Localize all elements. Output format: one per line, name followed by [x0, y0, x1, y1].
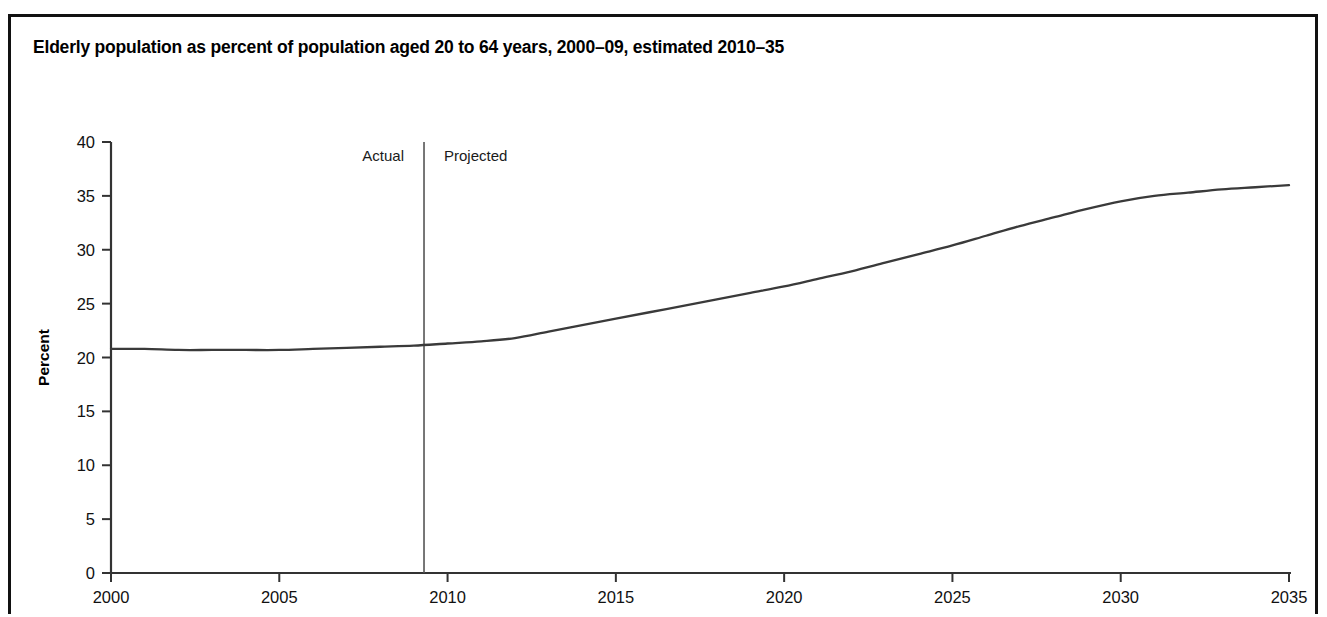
x-tick-label: 2035 [1271, 588, 1308, 606]
y-tick-label: 25 [77, 295, 95, 313]
y-tick-label: 10 [77, 456, 95, 474]
series-path [111, 185, 1289, 350]
phase-label-projected: Projected [444, 147, 507, 164]
y-axis-title: Percent [35, 329, 52, 386]
line-chart: 0510152025303540 20002005201020152020202… [11, 17, 1321, 617]
x-tick-label: 2020 [766, 588, 803, 606]
axis-lines [111, 142, 1291, 573]
y-tick-label: 5 [86, 510, 95, 528]
y-tick-label: 15 [77, 402, 95, 420]
x-tick-label: 2010 [429, 588, 466, 606]
y-tick-label: 0 [86, 564, 95, 582]
y-axis-ticks: 0510152025303540 [77, 133, 111, 582]
x-tick-label: 2015 [597, 588, 634, 606]
x-tick-label: 2025 [934, 588, 971, 606]
y-tick-label: 30 [77, 241, 95, 259]
figure-frame: Elderly population as percent of populat… [8, 14, 1318, 614]
phase-annotations: ActualProjected [362, 147, 507, 164]
x-tick-label: 2000 [93, 588, 130, 606]
x-tick-label: 2030 [1102, 588, 1139, 606]
phase-label-actual: Actual [362, 147, 404, 164]
y-tick-label: 40 [77, 133, 95, 151]
y-tick-label: 20 [77, 349, 95, 367]
elderly-population-series [111, 185, 1289, 350]
y-tick-label: 35 [77, 187, 95, 205]
y-axis-title-text: Percent [35, 329, 52, 386]
x-axis-ticks: 20002005201020152020202520302035 [93, 573, 1308, 606]
x-tick-label: 2005 [261, 588, 298, 606]
